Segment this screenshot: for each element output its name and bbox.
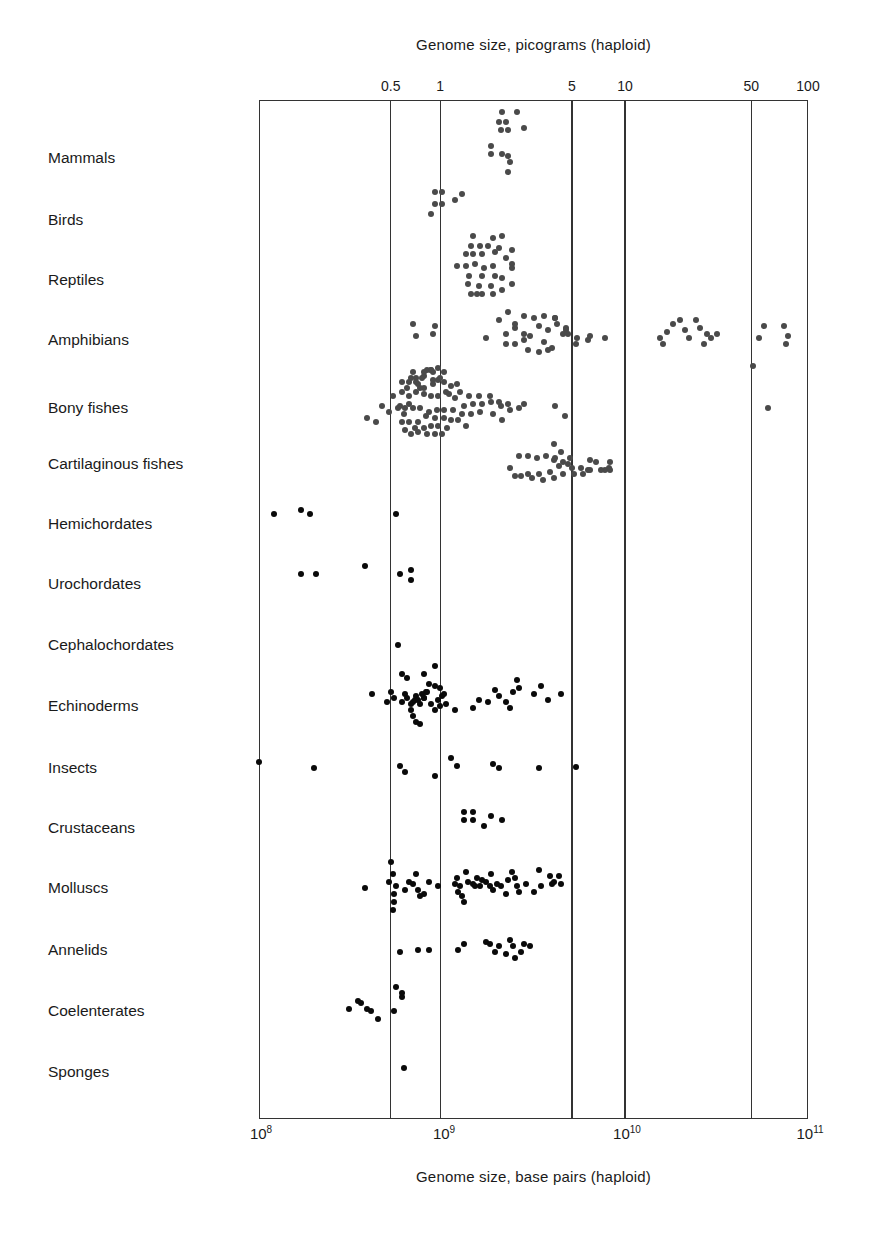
data-point — [602, 335, 608, 341]
data-point — [507, 407, 513, 413]
data-point — [397, 763, 403, 769]
data-point — [461, 941, 467, 947]
data-point — [402, 769, 408, 775]
data-point — [468, 411, 474, 417]
data-point — [428, 393, 434, 399]
data-point — [421, 391, 427, 397]
data-point — [756, 335, 762, 341]
data-point — [434, 407, 440, 413]
data-point — [424, 431, 430, 437]
data-point — [509, 247, 515, 253]
data-point — [404, 675, 410, 681]
data-point — [399, 990, 405, 996]
data-point — [536, 349, 542, 355]
data-point — [461, 817, 467, 823]
data-point — [488, 143, 494, 149]
data-point — [499, 233, 505, 239]
data-point — [571, 471, 577, 477]
data-point — [664, 329, 670, 335]
data-point — [479, 251, 485, 257]
data-point — [452, 395, 458, 401]
data-point — [697, 325, 703, 331]
top-tick-label: 5 — [568, 78, 576, 94]
data-point — [686, 335, 692, 341]
gridline — [751, 100, 752, 1119]
data-point — [514, 677, 520, 683]
data-point — [452, 197, 458, 203]
data-point — [490, 263, 496, 269]
data-point — [490, 411, 496, 417]
data-point — [413, 379, 419, 385]
data-point — [660, 341, 666, 347]
data-point — [256, 759, 262, 765]
data-point — [516, 405, 522, 411]
data-point — [271, 511, 277, 517]
data-point — [368, 1008, 374, 1014]
top-tick-label: 50 — [743, 78, 759, 94]
data-point — [492, 949, 498, 955]
bottom-tick-label: 1011 — [796, 1124, 823, 1142]
data-point — [410, 369, 416, 375]
data-point — [373, 419, 379, 425]
data-point — [514, 109, 520, 115]
bottom-tick-label: 109 — [433, 1124, 455, 1142]
data-point — [488, 283, 494, 289]
data-point — [463, 263, 469, 269]
data-point — [569, 465, 575, 471]
data-point — [540, 477, 546, 483]
data-point — [428, 367, 434, 373]
data-point — [406, 393, 412, 399]
data-point — [529, 475, 535, 481]
data-point — [432, 189, 438, 195]
data-point — [516, 685, 522, 691]
data-point — [393, 984, 399, 990]
data-point — [560, 471, 566, 477]
data-point — [426, 947, 432, 953]
data-point — [470, 705, 476, 711]
data-point — [505, 169, 511, 175]
category-label: Mammals — [48, 149, 115, 167]
data-point — [472, 261, 478, 267]
data-point — [499, 287, 505, 293]
data-point — [479, 401, 485, 407]
data-point — [470, 401, 476, 407]
top-tick-label: 1 — [436, 78, 444, 94]
data-point — [415, 947, 421, 953]
data-point — [525, 347, 531, 353]
data-point — [485, 243, 491, 249]
data-point — [516, 889, 522, 895]
data-point — [714, 331, 720, 337]
data-point — [410, 321, 416, 327]
data-point — [441, 407, 447, 413]
data-point — [465, 281, 471, 287]
data-point — [483, 335, 489, 341]
data-point — [505, 877, 511, 883]
data-point — [551, 475, 557, 481]
data-point — [307, 511, 313, 517]
data-point — [413, 333, 419, 339]
data-point — [390, 393, 396, 399]
data-point — [346, 1006, 352, 1012]
data-point — [455, 947, 461, 953]
category-label: Sponges — [48, 1063, 109, 1081]
data-point — [410, 881, 416, 887]
data-point — [488, 399, 494, 405]
data-point — [395, 405, 401, 411]
data-point — [558, 881, 564, 887]
data-point — [521, 125, 527, 131]
data-point — [406, 419, 412, 425]
data-point — [470, 817, 476, 823]
data-point — [362, 563, 368, 569]
data-point — [441, 369, 447, 375]
data-point — [516, 453, 522, 459]
data-point — [536, 765, 542, 771]
data-point — [474, 291, 480, 297]
data-point — [538, 883, 544, 889]
data-point — [421, 369, 427, 375]
data-point — [463, 423, 469, 429]
data-point — [505, 127, 511, 133]
data-point — [677, 317, 683, 323]
data-point — [538, 683, 544, 689]
data-point — [593, 459, 599, 465]
data-point — [518, 473, 524, 479]
